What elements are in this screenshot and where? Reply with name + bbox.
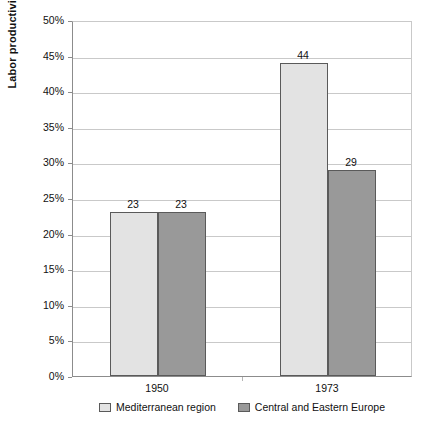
bar-value-label: 23 [161, 198, 201, 210]
gridline [73, 129, 411, 130]
y-axis-tick-label: 25% [24, 193, 64, 204]
gridline [73, 58, 411, 59]
bar-chart: Labor productivity in % of USA 50%45%40%… [0, 0, 434, 429]
x-axis-category-label: 1973 [287, 382, 367, 394]
y-axis-tick-label: 5% [24, 335, 64, 346]
legend-label: Central and Eastern Europe [255, 401, 385, 413]
bar[interactable] [280, 63, 328, 376]
bar[interactable] [110, 212, 158, 376]
legend-item-mediterranean-region[interactable]: Mediterranean region [99, 401, 216, 413]
y-axis-tick-label: 35% [24, 122, 64, 133]
y-axis-tick-label: 50% [24, 15, 64, 26]
y-axis-tick-label: 20% [24, 229, 64, 240]
y-axis-tick-mark [68, 377, 72, 378]
legend-swatch-icon [238, 403, 250, 412]
chart-legend: Mediterranean region Central and Eastern… [72, 399, 412, 415]
bar-value-label: 29 [331, 156, 371, 168]
y-axis-tick-label: 15% [24, 264, 64, 275]
x-axis-tick-mark [242, 377, 243, 381]
y-axis-tick-label: 30% [24, 157, 64, 168]
bar[interactable] [158, 212, 206, 376]
legend-label: Mediterranean region [116, 401, 216, 413]
y-axis-tick-label: 45% [24, 51, 64, 62]
y-axis-tick-label: 40% [24, 86, 64, 97]
legend-item-central-and-eastern-europe[interactable]: Central and Eastern Europe [238, 401, 385, 413]
bar-value-label: 23 [113, 198, 153, 210]
x-axis-category-label: 1950 [117, 382, 197, 394]
legend-swatch-icon [99, 403, 111, 412]
bar-value-label: 44 [283, 49, 323, 61]
gridline [73, 93, 411, 94]
y-axis-tick-label: 0% [24, 371, 64, 382]
y-axis-tick-label: 10% [24, 300, 64, 311]
y-axis-title: Labor productivity in % of USA [6, 0, 22, 116]
bar[interactable] [328, 170, 376, 376]
